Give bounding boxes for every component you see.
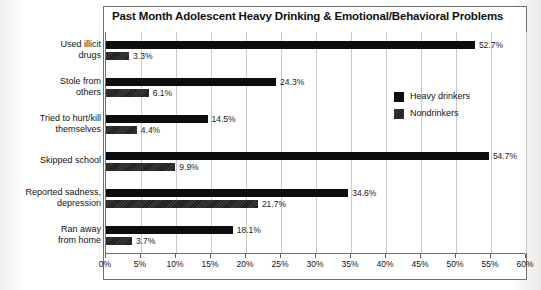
- x-axis-tick: [315, 254, 316, 258]
- plot-area: 52.7%3.3%24.3%6.1%14.5%4.4%54.7%9.9%34.6…: [105, 32, 525, 254]
- bar-value-label: 18.1%: [237, 226, 261, 234]
- bar-heavy: [106, 189, 348, 197]
- gridline: [421, 32, 422, 253]
- category-label: Tried to hurt/kill themselves: [1, 113, 101, 134]
- x-axis-tick: [245, 254, 246, 258]
- x-axis-tick: [455, 254, 456, 258]
- bar-non: [106, 89, 149, 97]
- gridline: [526, 32, 527, 253]
- chart-title: Past Month Adolescent Heavy Drinking & E…: [112, 10, 522, 22]
- bar-value-label: 6.1%: [153, 89, 172, 97]
- bar-heavy: [106, 226, 233, 234]
- x-axis-tick: [280, 254, 281, 258]
- x-axis-tick-label: 30%: [306, 259, 323, 269]
- x-axis-tick-label: 25%: [271, 259, 288, 269]
- bar-value-label: 34.6%: [352, 189, 376, 197]
- bar-non: [106, 237, 132, 245]
- gridline: [281, 32, 282, 253]
- x-axis-tick-label: 45%: [411, 259, 428, 269]
- x-axis-tick-label: 0%: [99, 259, 111, 269]
- x-axis-tick-label: 60%: [516, 259, 533, 269]
- bar-non: [106, 163, 175, 171]
- legend-swatch-icon-nondrinkers: [394, 109, 404, 119]
- gridline: [351, 32, 352, 253]
- bar-non: [106, 126, 137, 134]
- legend-swatch-icon-heavy-drinkers: [394, 92, 404, 102]
- gridline: [246, 32, 247, 253]
- bar-heavy: [106, 41, 475, 49]
- x-axis-tick: [140, 254, 141, 258]
- chart-legend: Heavy drinkers Nondrinkers: [394, 90, 514, 124]
- bar-value-label: 54.7%: [493, 152, 517, 160]
- x-axis-tick-label: 5%: [134, 259, 146, 269]
- bar-heavy: [106, 78, 276, 86]
- x-axis-tick: [350, 254, 351, 258]
- x-axis: 0%5%10%15%20%25%30%35%40%45%50%55%60%: [105, 254, 525, 276]
- chart-screenshot: Past Month Adolescent Heavy Drinking & E…: [0, 0, 541, 290]
- category-label: Stole from others: [1, 76, 101, 97]
- bar-value-label: 52.7%: [479, 41, 503, 49]
- x-axis-tick-label: 20%: [236, 259, 253, 269]
- x-axis-tick: [175, 254, 176, 258]
- legend-label-heavy-drinkers: Heavy drinkers: [410, 91, 470, 101]
- gridline: [316, 32, 317, 253]
- bar-value-label: 9.9%: [179, 163, 198, 171]
- x-axis-tick: [105, 254, 106, 258]
- x-axis-tick: [210, 254, 211, 258]
- category-axis-labels: Used illicit drugsStole from othersTried…: [0, 32, 101, 254]
- gridline: [386, 32, 387, 253]
- x-axis-tick: [490, 254, 491, 258]
- x-axis-tick-label: 10%: [166, 259, 183, 269]
- gridline: [211, 32, 212, 253]
- bar-heavy: [106, 152, 489, 160]
- x-axis-tick: [525, 254, 526, 258]
- gridline: [491, 32, 492, 253]
- bar-heavy: [106, 115, 208, 123]
- gridline: [176, 32, 177, 253]
- category-label: Skipped school: [1, 155, 101, 166]
- bar-value-label: 3.3%: [133, 52, 152, 60]
- bar-value-label: 4.4%: [141, 126, 160, 134]
- legend-item-nondrinkers[interactable]: Nondrinkers: [394, 107, 514, 122]
- x-axis-tick: [420, 254, 421, 258]
- bar-value-label: 3.7%: [136, 237, 155, 245]
- x-axis-tick: [385, 254, 386, 258]
- bar-value-label: 24.3%: [280, 78, 304, 86]
- legend-item-heavy-drinkers[interactable]: Heavy drinkers: [394, 90, 514, 105]
- legend-label-nondrinkers: Nondrinkers: [410, 108, 459, 118]
- gridline: [456, 32, 457, 253]
- bar-value-label: 14.5%: [212, 115, 236, 123]
- bar-non: [106, 200, 258, 208]
- plot-inner: 52.7%3.3%24.3%6.1%14.5%4.4%54.7%9.9%34.6…: [105, 32, 525, 254]
- x-axis-tick-label: 35%: [341, 259, 358, 269]
- x-axis-tick-label: 50%: [446, 259, 463, 269]
- bar-non: [106, 52, 129, 60]
- x-axis-tick-label: 55%: [481, 259, 498, 269]
- x-axis-tick-label: 15%: [201, 259, 218, 269]
- x-axis-tick-label: 40%: [376, 259, 393, 269]
- bar-value-label: 21.7%: [262, 200, 286, 208]
- category-label: Used illicit drugs: [1, 39, 101, 60]
- category-label: Ran away from home: [1, 224, 101, 245]
- gridline: [141, 32, 142, 253]
- category-label: Reported sadness, depression: [1, 187, 101, 208]
